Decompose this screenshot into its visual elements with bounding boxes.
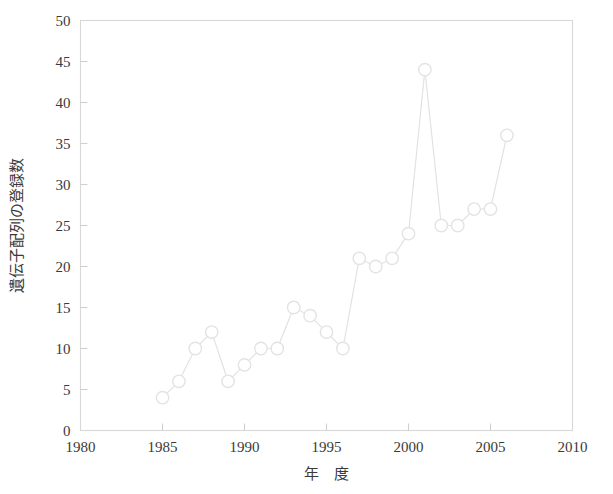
- data-point-marker: 1989: 6: [222, 375, 234, 387]
- x-tick-label: 2010: [558, 439, 588, 455]
- y-tick-label: 0: [63, 423, 71, 439]
- x-tick-label: 1990: [230, 439, 260, 455]
- y-tick-label: 25: [56, 218, 71, 234]
- x-tick-label: 2000: [394, 439, 424, 455]
- data-point-marker: 1986: 6: [173, 375, 185, 387]
- data-point-marker: 1994: 14: [304, 310, 316, 322]
- x-tick-label: 2005: [476, 439, 506, 455]
- data-point-marker: 1999: 21: [386, 252, 398, 264]
- data-point-marker: 1996: 10: [337, 342, 349, 354]
- data-point-marker: 1998: 20: [370, 260, 382, 272]
- y-tick-label: 30: [56, 177, 71, 193]
- x-axis-title: 年 度: [304, 465, 349, 483]
- data-point-marker: 1993: 15: [288, 301, 300, 313]
- data-point-marker: 2005: 27: [484, 203, 496, 215]
- y-tick-label: 10: [56, 341, 71, 357]
- data-point-marker: 1985: 4: [156, 392, 168, 404]
- data-point-marker: 2002: 25: [435, 219, 447, 231]
- y-tick-label: 45: [56, 54, 71, 70]
- data-point-marker: 1987: 10: [189, 342, 201, 354]
- data-point-marker: 1992: 10: [271, 342, 283, 354]
- y-axis-title: 遺伝子配列の登録数: [8, 158, 26, 293]
- chart-background: [0, 0, 613, 494]
- y-tick-label: 20: [56, 259, 71, 275]
- y-tick-label: 50: [56, 13, 71, 29]
- data-point-marker: 1988: 12: [206, 326, 218, 338]
- x-tick-label: 1980: [66, 439, 96, 455]
- data-point-marker: 2004: 27: [468, 203, 480, 215]
- x-tick-label: 1995: [312, 439, 342, 455]
- chart-container: 05101520253035404550 1980198519901995200…: [0, 0, 613, 494]
- data-point-marker: 2006: 36: [501, 129, 513, 141]
- data-point-marker: 2000: 24: [402, 228, 414, 240]
- data-point-marker: 2001: 44: [419, 63, 431, 75]
- data-point-marker: 1997: 21: [353, 252, 365, 264]
- y-tick-label: 40: [56, 95, 71, 111]
- x-tick-label: 1985: [148, 439, 178, 455]
- data-point-marker: 1990: 8: [238, 359, 250, 371]
- data-point-marker: 1991: 10: [255, 342, 267, 354]
- y-tick-label: 15: [56, 300, 71, 316]
- data-point-marker: 2003: 25: [452, 219, 464, 231]
- y-tick-label: 5: [63, 382, 71, 398]
- line-chart-plot: 05101520253035404550 1980198519901995200…: [0, 0, 613, 494]
- data-point-marker: 1995: 12: [320, 326, 332, 338]
- y-tick-label: 35: [56, 136, 71, 152]
